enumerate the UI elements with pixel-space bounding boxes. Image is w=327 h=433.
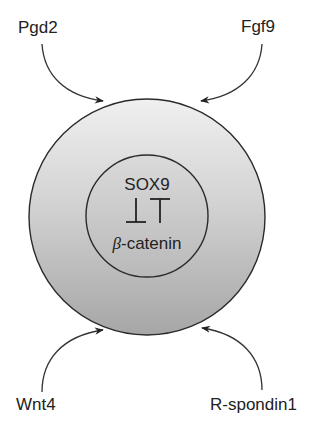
sox9-label: SOX9 — [124, 175, 169, 194]
signal-label-rspondin1: R-spondin1 — [210, 395, 297, 414]
beta-catenin-label: β-catenin — [112, 234, 182, 253]
arrow-rspondin1-icon — [202, 328, 262, 390]
catenin-text: -catenin — [121, 234, 181, 253]
signal-label-fgf9: Fgf9 — [241, 17, 275, 36]
arrow-fgf9-icon — [201, 44, 262, 101]
arrow-pgd2-icon — [42, 44, 103, 101]
signal-label-pgd2: Pgd2 — [18, 18, 58, 37]
signal-label-wnt4: Wnt4 — [16, 395, 56, 414]
sex-determination-diagram: SOX9 β-catenin Pgd2 Fgf9 Wnt4 R-spondin1 — [0, 0, 327, 433]
arrow-wnt4-icon — [42, 330, 103, 392]
inner-circle — [86, 155, 208, 277]
